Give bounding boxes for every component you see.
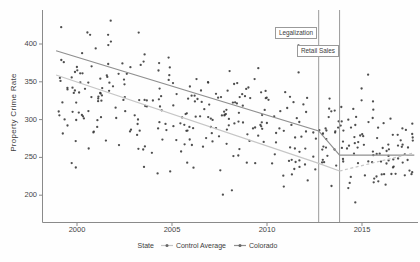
y-tick-label: 300 — [4, 115, 37, 125]
legend-key-colorado-icon — [234, 242, 246, 250]
legend: StateControl AverageColorado — [0, 242, 420, 251]
x-tick-label: 2000 — [57, 225, 97, 235]
legend-title: State — [138, 242, 154, 249]
vline-label-legalization: Legalization — [275, 27, 317, 39]
y-tick-label: 400 — [4, 39, 37, 49]
x-tick-label: 2010 — [247, 225, 287, 235]
vline-label-retail-sales: Retail Sales — [297, 45, 339, 57]
trend-line-control-average — [56, 75, 340, 171]
y-tick-label: 350 — [4, 77, 37, 87]
x-tick-label: 2015 — [342, 225, 382, 235]
legend-label-colorado: Colorado — [249, 242, 277, 249]
scatter-points — [58, 20, 414, 204]
legend-key-control-average-icon — [161, 242, 173, 250]
legend-label-control-average: Control Average — [176, 242, 226, 249]
y-tick-label: 200 — [4, 190, 37, 200]
chart-figure: Property Crime Rate Legalization Retail … — [0, 0, 420, 262]
x-tick-label: 2005 — [152, 225, 192, 235]
chart-canvas — [0, 0, 420, 262]
y-tick-label: 250 — [4, 152, 37, 162]
